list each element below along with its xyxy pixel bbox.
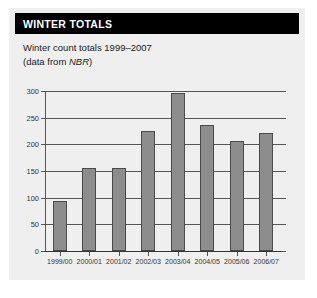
- y-tick: [41, 91, 45, 92]
- gridline: [45, 144, 281, 145]
- bar: [230, 141, 244, 251]
- x-axis-line: [45, 251, 281, 252]
- bar: [259, 133, 273, 251]
- x-axis-label: 2002/03: [136, 258, 161, 265]
- y-tick: [41, 198, 45, 199]
- bar: [53, 201, 67, 251]
- y-axis-label: 150: [9, 167, 39, 176]
- bar: [171, 93, 185, 251]
- chart-panel: WINTER TOTALS Winter count totals 1999–2…: [9, 8, 305, 280]
- y-tick: [41, 144, 45, 145]
- y-tick: [41, 251, 45, 252]
- y-tick: [41, 118, 45, 119]
- y-tick-right: [281, 118, 286, 119]
- x-tick: [178, 252, 179, 256]
- gridline: [45, 118, 281, 119]
- x-tick: [148, 252, 149, 256]
- bar: [112, 168, 126, 251]
- y-tick: [41, 171, 45, 172]
- gridline: [45, 91, 281, 92]
- x-tick: [60, 252, 61, 256]
- x-axis-label: 2003/04: [165, 258, 190, 265]
- y-tick-right: [281, 91, 286, 92]
- y-axis-label: 300: [9, 87, 39, 96]
- y-tick-right: [281, 251, 286, 252]
- x-axis-label: 2006/07: [254, 258, 279, 265]
- bar-chart: 050100150200250300 1999/002000/012001/02…: [9, 8, 305, 280]
- y-axis-label: 200: [9, 140, 39, 149]
- y-tick-right: [281, 171, 286, 172]
- y-tick-right: [281, 144, 286, 145]
- bar: [82, 168, 96, 251]
- x-axis-label: 1999/00: [47, 258, 72, 265]
- bar: [141, 131, 155, 251]
- x-tick: [266, 252, 267, 256]
- x-axis-label: 2001/02: [106, 258, 131, 265]
- x-tick: [89, 252, 90, 256]
- y-axis-label: 250: [9, 114, 39, 123]
- gridline: [45, 171, 281, 172]
- x-tick: [237, 252, 238, 256]
- plot-area: 050100150200250300 1999/002000/012001/02…: [45, 91, 281, 251]
- x-axis-label: 2004/05: [195, 258, 220, 265]
- gridline: [45, 198, 281, 199]
- y-axis-label: 50: [9, 220, 39, 229]
- x-tick: [207, 252, 208, 256]
- y-tick-right: [281, 224, 286, 225]
- y-tick: [41, 224, 45, 225]
- x-axis-label: 2005/06: [224, 258, 249, 265]
- bar: [200, 125, 214, 251]
- y-tick-right: [281, 198, 286, 199]
- x-tick: [119, 252, 120, 256]
- y-axis-label: 0: [9, 247, 39, 256]
- x-axis-label: 2000/01: [77, 258, 102, 265]
- y-axis-label: 100: [9, 194, 39, 203]
- gridline: [45, 224, 281, 225]
